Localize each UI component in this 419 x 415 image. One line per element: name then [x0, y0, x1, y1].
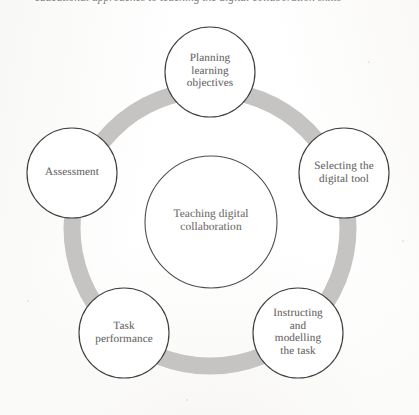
figure-teaching-digital-collaboration: educational approaches to teaching the d… — [0, 0, 419, 415]
node-circle-instructing-and-modelling-the-task[interactable] — [253, 288, 343, 378]
node-circle-assessment[interactable] — [27, 128, 117, 218]
node-circle-selecting-the-digital-tool[interactable] — [299, 128, 389, 218]
cycle-diagram — [0, 0, 419, 415]
node-circle-task-performance[interactable] — [79, 288, 169, 378]
node-circle-planning-learning-objectives[interactable] — [165, 27, 255, 117]
center-circle — [145, 156, 277, 288]
